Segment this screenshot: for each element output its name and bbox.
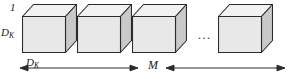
filter-cube-1 [22, 4, 77, 57]
cube-front-face [133, 17, 176, 53]
arrow-right-head-left [166, 65, 174, 71]
arrow-left-head [20, 65, 28, 71]
arrow-left-head-right [130, 65, 138, 71]
cube-front-face [78, 17, 121, 53]
dk-base: D [1, 26, 9, 38]
filter-cube-4 [218, 4, 273, 57]
cube-front-face [23, 17, 66, 53]
dk-subscript: K [9, 31, 14, 40]
height-label-dk: DK [1, 27, 14, 38]
ellipsis-label: ... [198, 28, 212, 43]
arrow-right-head [277, 65, 285, 71]
filter-cube-2 [77, 4, 132, 57]
m-span-arrow [0, 62, 291, 74]
depthwise-filter-diagram: ... 1 DK DK M [0, 0, 291, 79]
cube-front-face [219, 17, 262, 53]
filter-cube-3 [132, 4, 187, 57]
span-label-m: M [148, 59, 158, 71]
depth-label-one: 1 [10, 2, 16, 13]
